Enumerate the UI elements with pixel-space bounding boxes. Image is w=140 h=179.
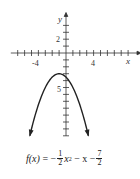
fraction-one-half: 1 2 — [57, 150, 63, 167]
graph: y x -4 4 2 5 — [0, 0, 140, 150]
x-tick-label-neg4: -4 — [32, 59, 39, 68]
parabola-curve — [30, 74, 89, 136]
function-formula: f(x) = − 1 2 x2 − x − 7 2 — [26, 150, 103, 167]
y-tick-label-5: 5 — [57, 85, 61, 94]
formula-lhs: f(x) — [26, 153, 40, 164]
formula-mid: − x − — [72, 153, 96, 164]
curve-arrows — [29, 129, 89, 136]
axes — [11, 13, 140, 136]
y-axis-label: y — [57, 14, 62, 24]
x-tick-label-4: 4 — [91, 59, 95, 68]
x-axis-label: x — [125, 56, 130, 66]
fraction-seven-halves: 7 2 — [96, 150, 102, 167]
y-tick-label-2: 2 — [56, 35, 60, 44]
formula-eq: = − — [40, 153, 56, 164]
